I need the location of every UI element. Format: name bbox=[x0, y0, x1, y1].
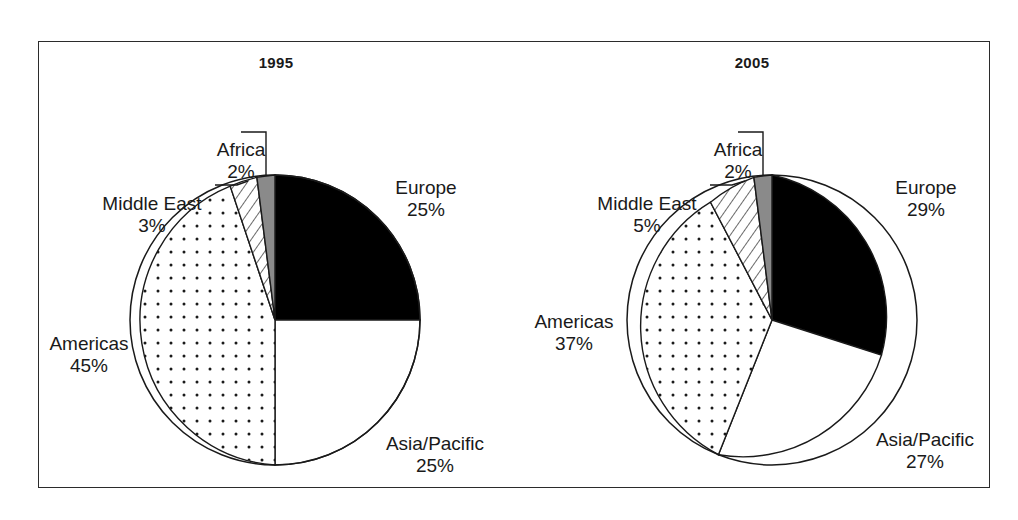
label-europe-name-1995: Europe bbox=[376, 177, 476, 199]
label-middle-east-name-1995: Middle East bbox=[90, 193, 214, 215]
label-europe-1995: Europe 25% bbox=[376, 177, 476, 222]
label-asia-pacific-name-2005: Asia/Pacific bbox=[858, 429, 992, 451]
label-asia-pacific-2005: Asia/Pacific 27% bbox=[858, 429, 992, 474]
label-asia-pacific-pct-1995: 25% bbox=[368, 455, 502, 477]
pie-chart-1995 bbox=[38, 41, 514, 488]
label-europe-2005: Europe 29% bbox=[876, 177, 976, 222]
label-europe-pct-1995: 25% bbox=[376, 199, 476, 221]
label-middle-east-pct-2005: 5% bbox=[585, 215, 709, 237]
label-africa-2005: Africa 2% bbox=[690, 139, 786, 184]
label-africa-name-2005: Africa bbox=[690, 139, 786, 161]
label-middle-east-1995: Middle East 3% bbox=[90, 193, 214, 238]
label-europe-name-2005: Europe bbox=[876, 177, 976, 199]
figure-canvas: 1995 bbox=[0, 0, 1018, 520]
label-asia-pacific-1995: Asia/Pacific 25% bbox=[368, 433, 502, 478]
pie-chart-2005 bbox=[514, 41, 990, 488]
label-africa-name-1995: Africa bbox=[193, 139, 289, 161]
label-middle-east-2005: Middle East 5% bbox=[585, 193, 709, 238]
label-americas-pct-2005: 37% bbox=[519, 333, 629, 355]
label-asia-pacific-name-1995: Asia/Pacific bbox=[368, 433, 502, 455]
label-americas-pct-1995: 45% bbox=[34, 355, 144, 377]
label-middle-east-name-2005: Middle East bbox=[585, 193, 709, 215]
label-americas-1995: Americas 45% bbox=[34, 333, 144, 378]
label-africa-pct-1995: 2% bbox=[193, 161, 289, 183]
label-americas-name-1995: Americas bbox=[34, 333, 144, 355]
label-europe-pct-2005: 29% bbox=[876, 199, 976, 221]
label-americas-name-2005: Americas bbox=[519, 311, 629, 333]
label-africa-pct-2005: 2% bbox=[690, 161, 786, 183]
label-americas-2005: Americas 37% bbox=[519, 311, 629, 356]
pie-panel-1995: 1995 bbox=[38, 41, 514, 488]
label-africa-1995: Africa 2% bbox=[193, 139, 289, 184]
label-asia-pacific-pct-2005: 27% bbox=[858, 451, 992, 473]
pie-panel-2005: 2005 bbox=[514, 41, 990, 488]
label-middle-east-pct-1995: 3% bbox=[90, 215, 214, 237]
